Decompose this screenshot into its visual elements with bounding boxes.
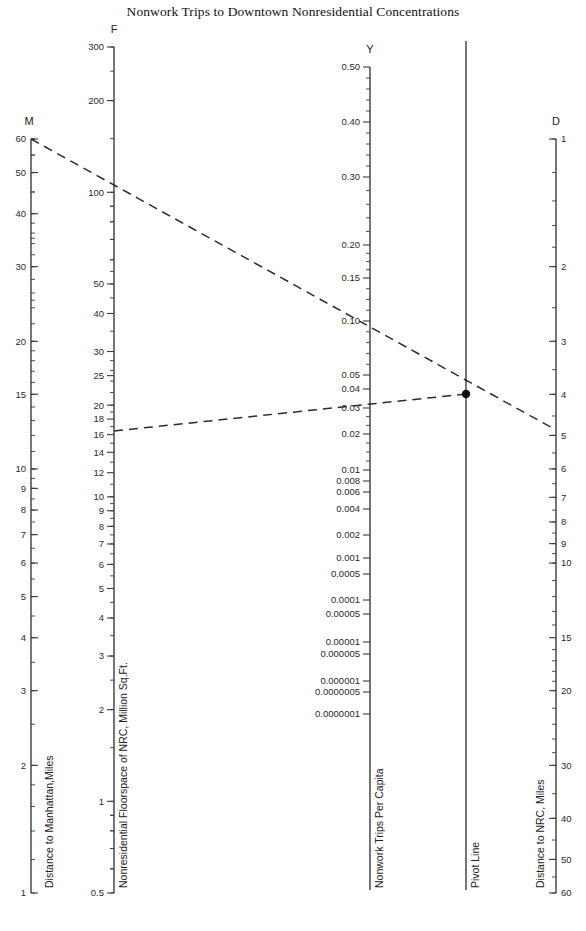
axis-d-tick-label: 7 <box>561 492 566 503</box>
axis-m-distance-to-manhattan: M60504030201510987654321Distance to Manh… <box>15 115 55 898</box>
axis-y-tick-label: 0.0005 <box>331 568 360 579</box>
axis-y-tick-label: 0.008 <box>336 475 360 486</box>
axis-f-name: Nonresidential Floorspace of NRC, Millio… <box>117 662 129 888</box>
axis-f-tick-label: 6 <box>99 559 104 570</box>
construction-lines <box>31 139 556 431</box>
axis-y-tick-label: 0.0001 <box>331 594 360 605</box>
axis-d-tick-label: 4 <box>561 389 566 400</box>
axis-y-tick-label: 0.01 <box>342 464 361 475</box>
axis-f-tick-label: 9 <box>99 505 104 516</box>
axis-m-tick-label: 1 <box>21 887 26 898</box>
axis-y-tick-label: 0.000005 <box>320 648 360 659</box>
axis-d-tick-label: 9 <box>561 538 566 549</box>
axis-d-distance-to-nrc: D12345678910152030405060Distance to NRC,… <box>534 115 572 898</box>
axis-m-tick-label: 7 <box>21 529 26 540</box>
axis-y-tick-label: 0.40 <box>342 116 361 127</box>
axis-y-tick-label: 0.00005 <box>326 608 360 619</box>
axis-d-tick-label: 10 <box>561 557 572 568</box>
axis-d-tick-label: 1 <box>561 133 566 144</box>
axis-m-tick-label: 8 <box>21 504 26 515</box>
axis-m-tick-label: 60 <box>15 133 26 144</box>
axis-y-tick-label: 0.00001 <box>326 636 360 647</box>
axis-pivot-line: Pivot Line <box>466 41 481 890</box>
axis-y-nonwork-trips-per-capita: Y0.500.400.300.200.150.100.050.040.030.0… <box>315 43 385 890</box>
nomogram-figure: M60504030201510987654321Distance to Manh… <box>0 0 586 931</box>
axis-y-tick-label: 0.002 <box>336 529 360 540</box>
axis-y-tick-label: 0.0000001 <box>315 708 360 719</box>
axis-d-tick-label: 60 <box>561 887 572 898</box>
axis-m-tick-label: 5 <box>21 591 26 602</box>
axis-f-tick-label: 50 <box>93 278 104 289</box>
axis-f-tick-label: 8 <box>99 521 104 532</box>
axis-d-tick-label: 50 <box>561 854 572 865</box>
axis-f-tick-label: 300 <box>88 41 104 52</box>
axis-f-tick-label: 30 <box>93 346 104 357</box>
axis-m-tick-label: 2 <box>21 760 26 771</box>
axis-m-tick-label: 50 <box>15 167 26 178</box>
axis-y-head: Y <box>366 43 374 55</box>
axis-m-tick-label: 6 <box>21 557 26 568</box>
construction-line-2 <box>114 394 466 431</box>
axis-m-tick-label: 30 <box>15 261 26 272</box>
axis-m-tick-label: 4 <box>21 632 26 643</box>
axis-d-tick-label: 6 <box>561 463 566 474</box>
axis-f-tick-label: 16 <box>93 429 104 440</box>
axis-d-tick-label: 2 <box>561 261 566 272</box>
axis-f-tick-label: 2 <box>99 704 104 715</box>
axis-f-tick-label: 3 <box>99 650 104 661</box>
axis-f-tick-label: 100 <box>88 187 104 198</box>
axis-m-tick-label: 20 <box>15 336 26 347</box>
axis-f-tick-label: 20 <box>93 400 104 411</box>
axis-f-tick-label: 14 <box>93 447 104 458</box>
axis-d-head: D <box>552 115 560 127</box>
axis-y-tick-label: 0.04 <box>342 383 361 394</box>
axis-d-tick-label: 20 <box>561 685 572 696</box>
axis-m-tick-label: 15 <box>15 389 26 400</box>
axis-d-tick-label: 40 <box>561 813 572 824</box>
pivot-point-marker <box>462 390 470 398</box>
axis-d-tick-label: 30 <box>561 760 572 771</box>
axis-f-tick-label: 25 <box>93 370 104 381</box>
axis-y-tick-label: 0.03 <box>342 402 361 413</box>
pivot-line-name: Pivot Line <box>469 842 481 888</box>
axis-f-tick-label: 7 <box>99 538 104 549</box>
axis-m-tick-label: 9 <box>21 483 26 494</box>
axis-y-tick-label: 0.30 <box>342 171 361 182</box>
axis-f-tick-label: 200 <box>88 95 104 106</box>
axis-d-tick-label: 15 <box>561 632 572 643</box>
axis-m-tick-label: 40 <box>15 208 26 219</box>
axis-d-tick-label: 5 <box>561 430 566 441</box>
axis-f-tick-label: 5 <box>99 583 104 594</box>
axis-f-tick-label: 0.5 <box>91 887 104 898</box>
axis-d-tick-label: 3 <box>561 336 566 347</box>
axis-f-tick-label: 1 <box>99 796 104 807</box>
axis-y-tick-label: 0.02 <box>342 428 361 439</box>
axis-f-tick-label: 12 <box>93 467 104 478</box>
axis-y-tick-label: 0.0000005 <box>315 686 360 697</box>
axis-y-tick-label: 0.000001 <box>320 675 360 686</box>
axis-y-tick-label: 0.15 <box>342 272 361 283</box>
axis-f-floorspace: F300200100504030252018161412109876543210… <box>88 23 129 898</box>
axis-f-head: F <box>111 23 118 35</box>
axis-y-tick-label: 0.50 <box>342 61 361 72</box>
axis-d-tick-label: 8 <box>561 516 566 527</box>
axis-m-tick-label: 3 <box>21 685 26 696</box>
axis-d-name: Distance to NRC, Miles <box>534 779 546 888</box>
axis-y-name: Nonwork Trips Per Capita <box>373 768 385 888</box>
axis-f-tick-label: 10 <box>93 491 104 502</box>
axis-y-tick-label: 0.05 <box>342 369 361 380</box>
axis-m-head: M <box>24 115 33 127</box>
axis-y-tick-label: 0.006 <box>336 486 360 497</box>
axis-f-tick-label: 40 <box>93 308 104 319</box>
axis-f-tick-label: 18 <box>93 413 104 424</box>
axis-f-tick-label: 4 <box>99 612 104 623</box>
axis-y-tick-label: 0.004 <box>336 503 360 514</box>
axis-m-tick-label: 10 <box>15 463 26 474</box>
axis-y-tick-label: 0.001 <box>336 552 360 563</box>
axis-y-tick-label: 0.20 <box>342 239 361 250</box>
axis-m-name: Distance to Manhattan,Miles <box>43 756 55 888</box>
